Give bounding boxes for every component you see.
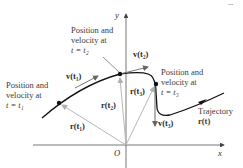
- v-t3-label: v(t₃): [158, 118, 173, 128]
- point-t1: [57, 101, 61, 105]
- corner-text: ...: [228, 0, 233, 8]
- point-t2: [118, 72, 122, 76]
- origin-label: O: [114, 148, 120, 158]
- label-t1: Position and velocity at t = t₁: [6, 80, 48, 110]
- t2-leader-line: [103, 57, 119, 72]
- v-t2-label: v(t₂): [133, 49, 148, 59]
- trajectory-label: Trajectory r(t): [198, 106, 233, 126]
- label-t3: Position and velocity at t = t₃: [161, 67, 203, 97]
- y-axis-label: y: [115, 10, 119, 20]
- r-t3-label: r(t₃): [130, 86, 145, 96]
- r-t1-label: r(t₁): [70, 121, 85, 131]
- x-axis-label: x: [218, 148, 222, 158]
- v-t1-label: v(t₁): [66, 71, 81, 81]
- r-t2-vector: [120, 78, 126, 145]
- point-t3: [154, 82, 158, 86]
- r-t2-label: r(t₂): [101, 100, 116, 110]
- label-t2: Position and velocity at t = t₂: [71, 25, 113, 55]
